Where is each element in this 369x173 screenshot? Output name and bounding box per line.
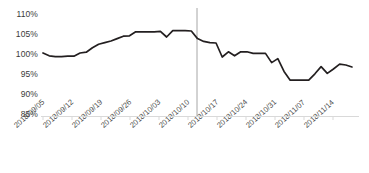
line-chart: 110% 105% 100% 95% 90% 85% 2018/09/05 20… bbox=[0, 0, 369, 173]
x-axis bbox=[41, 117, 359, 121]
x-axis-ticks bbox=[43, 117, 333, 121]
plot-area bbox=[0, 0, 369, 173]
